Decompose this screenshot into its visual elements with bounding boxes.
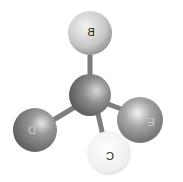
atom-label-right: E [144,116,158,128]
atom-label-top: B [84,26,98,38]
atom-label-front: C [103,150,117,162]
atom-center [69,74,111,116]
molecule-diagram: B D E C [0,0,183,182]
atom-label-left: D [25,124,39,136]
